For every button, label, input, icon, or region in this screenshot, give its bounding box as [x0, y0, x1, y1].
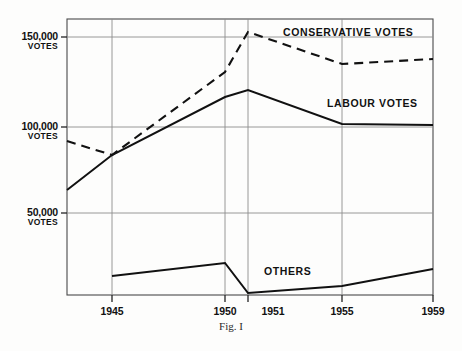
ytick-unit-50000: VOTES [0, 217, 58, 227]
ytick-unit-100000: VOTES [0, 131, 58, 141]
xtick-label-1959: 1959 [409, 305, 457, 317]
series-label-others: OTHERS [264, 265, 311, 277]
ytick-label-50000: 50,000 VOTES [0, 207, 58, 227]
ytick-unit-150000: VOTES [0, 41, 58, 51]
xtick-label-1951: 1951 [249, 305, 297, 317]
xtick-label-1945: 1945 [88, 305, 136, 317]
ytick-label-100000: 100,000 VOTES [0, 121, 58, 141]
xtick-label-1955: 1955 [318, 305, 366, 317]
series-label-conservative: CONSERVATIVE VOTES [283, 26, 413, 38]
ytick-number-100000: 100,000 [0, 121, 58, 131]
plot-frame [67, 19, 433, 295]
ytick-label-150000: 150,000 VOTES [0, 31, 58, 51]
series-line-conservative [67, 32, 433, 155]
xtick-label-1950: 1950 [201, 305, 249, 317]
ytick-number-50000: 50,000 [0, 207, 58, 217]
ytick-number-150000: 150,000 [0, 31, 58, 41]
series-label-labour: LABOUR VOTES [327, 97, 418, 109]
votes-line-chart [0, 0, 462, 351]
figure-caption: Fig. I [0, 320, 462, 332]
figure-container: 150,000 VOTES 100,000 VOTES 50,000 VOTES… [0, 0, 462, 351]
